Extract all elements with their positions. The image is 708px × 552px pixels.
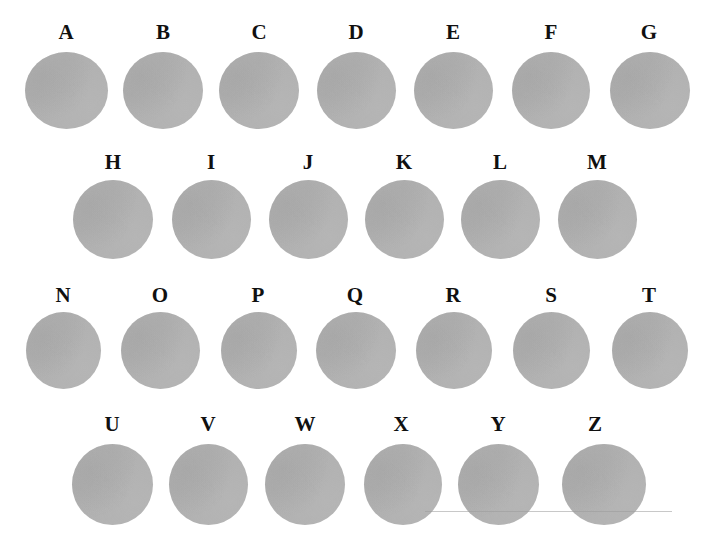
specimen-disc-z <box>562 444 646 525</box>
panel-label-m: M <box>587 152 607 173</box>
specimen-disc-p <box>221 312 297 389</box>
panel-label-f: F <box>545 22 558 43</box>
specimen-disc-j <box>269 180 348 259</box>
panel-label-z: Z <box>588 414 602 435</box>
panel-label-e: E <box>446 22 460 43</box>
specimen-disc-x <box>364 444 442 525</box>
panel-label-y: Y <box>490 414 505 435</box>
panel-label-u: U <box>104 414 119 435</box>
specimen-disc-m <box>558 180 637 259</box>
panel-label-c: C <box>251 22 266 43</box>
specimen-disc-q <box>316 312 396 389</box>
panel-label-s: S <box>545 285 557 306</box>
specimen-disc-t <box>612 312 688 389</box>
specimen-disc-k <box>365 180 444 259</box>
panel-label-l: L <box>493 152 507 173</box>
panel-label-n: N <box>55 285 70 306</box>
specimen-disc-h <box>73 180 153 259</box>
panel-label-d: D <box>348 22 363 43</box>
specimen-disc-e <box>414 52 493 129</box>
specimen-disc-w <box>265 444 345 525</box>
bottom-rule <box>425 511 672 512</box>
specimen-disc-n <box>26 312 101 389</box>
specimen-disc-o <box>121 312 200 389</box>
specimen-disc-y <box>458 444 539 525</box>
panel-label-v: V <box>200 414 215 435</box>
specimen-disc-g <box>610 52 690 129</box>
panel-label-q: Q <box>347 285 363 306</box>
panel-label-o: O <box>152 285 168 306</box>
panel-label-p: P <box>252 285 265 306</box>
specimen-disc-a <box>25 52 108 129</box>
specimen-disc-r <box>416 312 492 389</box>
panel-label-j: J <box>303 152 314 173</box>
specimen-disc-v <box>169 444 248 525</box>
specimen-disc-u <box>72 444 153 525</box>
panel-label-a: A <box>58 22 73 43</box>
specimen-disc-c <box>219 52 299 129</box>
panel-label-k: K <box>396 152 412 173</box>
specimen-disc-s <box>513 312 590 389</box>
specimen-disc-i <box>172 180 251 259</box>
specimen-panel-figure: ABCDEFGHIJKLMNOPQRSTUVWXYZ <box>0 0 708 552</box>
panel-label-r: R <box>445 285 460 306</box>
panel-label-i: I <box>207 152 215 173</box>
panel-label-w: W <box>295 414 316 435</box>
panel-label-x: X <box>393 414 408 435</box>
specimen-disc-f <box>512 52 590 129</box>
specimen-disc-l <box>461 180 540 259</box>
specimen-disc-b <box>123 52 203 129</box>
panel-label-g: G <box>641 22 657 43</box>
specimen-disc-d <box>317 52 396 129</box>
panel-label-t: T <box>642 285 656 306</box>
panel-label-b: B <box>156 22 170 43</box>
panel-label-h: H <box>105 152 121 173</box>
